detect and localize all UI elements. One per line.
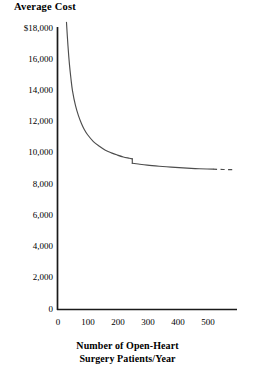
chart-figure: Average Cost $18,000 16,000 14,000 12,00… <box>0 0 255 375</box>
cost-curve-main <box>66 22 132 159</box>
x-axis-caption-line-2: Surgery Patients/Year <box>0 352 255 365</box>
cost-curve-second-segment <box>132 163 213 169</box>
x-axis-caption-line-1: Number of Open-Heart <box>0 339 255 352</box>
plot-area <box>0 0 255 375</box>
x-axis-caption: Number of Open-Heart Surgery Patients/Ye… <box>0 339 255 365</box>
